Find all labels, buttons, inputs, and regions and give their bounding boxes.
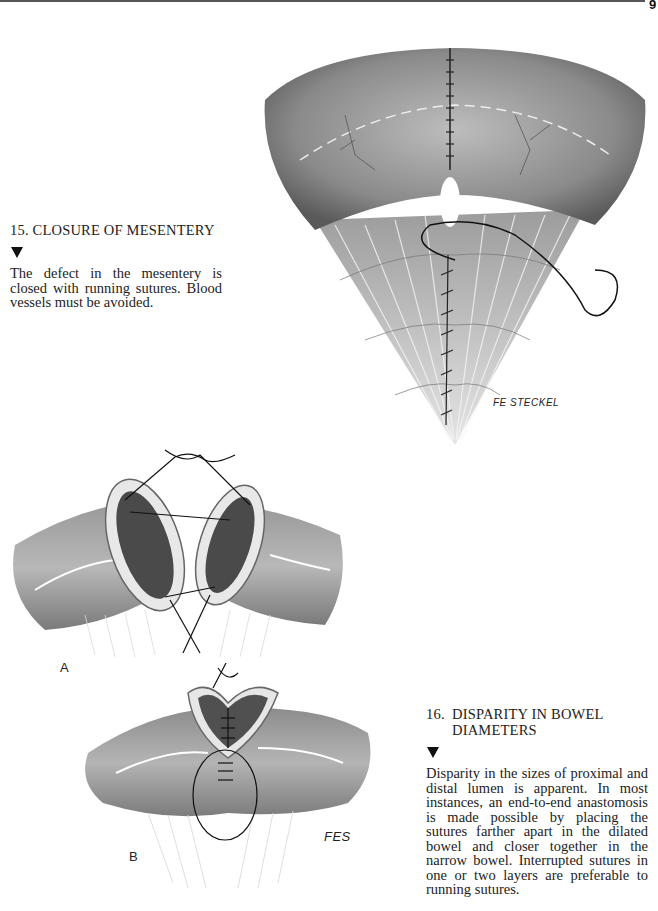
section-15-heading: 15. CLOSURE OF MESENTERY xyxy=(10,222,222,238)
figure-16b-illustration xyxy=(78,663,378,898)
section-16-body: Disparity in the sizes of proximal and d… xyxy=(426,766,648,897)
figure-16a-illustration xyxy=(5,435,350,660)
figure-16b-signature: FES xyxy=(324,829,351,844)
page-number: 9 xyxy=(649,0,656,12)
section-16-number: 16. xyxy=(426,706,445,722)
triangle-marker-icon xyxy=(11,247,23,258)
section-15-body: The defect in the mesentery is closed wi… xyxy=(10,266,222,310)
section-15-title: CLOSURE OF MESENTERY xyxy=(33,222,215,238)
figure-15-illustration xyxy=(255,20,655,470)
section-15: 15. CLOSURE OF MESENTERY The defect in t… xyxy=(10,222,222,310)
figure-16b-label: B xyxy=(129,849,138,864)
figure-15-signature: FE STECKEL xyxy=(493,397,559,408)
triangle-marker-icon xyxy=(427,747,439,758)
section-16-title-line1: DISPARITY IN BOWEL xyxy=(452,706,648,722)
figure-16a-label: A xyxy=(60,660,69,675)
section-16-heading: 16. DISPARITY IN BOWEL DIAMETERS xyxy=(426,706,648,738)
section-16-title-line2: DIAMETERS xyxy=(452,722,648,738)
header-rule xyxy=(0,0,645,2)
section-15-number: 15. xyxy=(10,222,29,238)
section-16: 16. DISPARITY IN BOWEL DIAMETERS Dispari… xyxy=(426,706,648,897)
